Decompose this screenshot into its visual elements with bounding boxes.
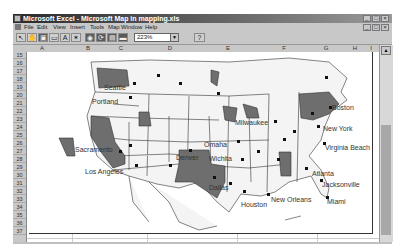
column-header-d[interactable]: D	[155, 45, 185, 52]
center-map-button[interactable]: ▣	[38, 33, 48, 42]
doc-close-button[interactable]: ×	[381, 24, 389, 31]
excel-app-icon[interactable]	[14, 15, 21, 22]
vertical-scrollbar[interactable]: ▲	[379, 45, 393, 242]
menu-map[interactable]: Map	[108, 23, 120, 32]
doc-minimize-button[interactable]: _	[363, 24, 371, 31]
menu-edit[interactable]: Edit	[37, 23, 47, 32]
city-marker[interactable]	[157, 74, 160, 77]
city-marker[interactable]	[283, 138, 286, 141]
city-marker[interactable]	[326, 196, 329, 199]
grabber-button[interactable]: ✋	[27, 33, 37, 42]
city-marker[interactable]	[243, 190, 246, 193]
city-marker[interactable]	[320, 179, 323, 182]
column-header-c[interactable]: C	[106, 45, 136, 52]
row-header[interactable]: 23	[13, 116, 26, 123]
city-marker[interactable]	[129, 144, 132, 147]
menu-insert[interactable]: Insert	[70, 23, 85, 32]
row-header[interactable]: 24	[13, 124, 26, 131]
doc-restore-button[interactable]: □	[372, 24, 380, 31]
scrollbar-thumb[interactable]	[381, 125, 391, 235]
city-marker[interactable]	[257, 150, 260, 153]
city-marker[interactable]	[329, 106, 332, 109]
map-refresh-button[interactable]: ▤	[107, 33, 117, 42]
scroll-up-button[interactable]: ▲	[381, 46, 391, 55]
city-marker[interactable]	[267, 193, 270, 196]
row-header[interactable]: 28	[13, 156, 26, 163]
city-label-omaha: Omaha	[204, 141, 227, 149]
row-header[interactable]: 32	[13, 188, 26, 195]
row-header[interactable]: 29	[13, 164, 26, 171]
row-header[interactable]: 37	[13, 228, 26, 235]
city-marker[interactable]	[311, 112, 314, 115]
redraw-map-button[interactable]: ⟳	[96, 33, 106, 42]
menu-window[interactable]: Window	[121, 23, 142, 32]
city-marker[interactable]	[293, 130, 296, 133]
row-header[interactable]: 26	[13, 140, 26, 147]
column-header-b[interactable]: B	[73, 45, 103, 52]
row-header[interactable]: 21	[13, 100, 26, 107]
window-title: Microsoft Excel - Microsoft Map in mappi…	[23, 14, 179, 23]
city-marker[interactable]	[135, 164, 138, 167]
row-header[interactable]: 22	[13, 108, 26, 115]
city-marker[interactable]	[133, 82, 136, 85]
row-header[interactable]: 36	[13, 220, 26, 227]
display-entire-button[interactable]: ◉	[85, 33, 95, 42]
city-marker[interactable]	[237, 140, 240, 143]
help-button[interactable]: ?	[194, 33, 205, 42]
city-marker[interactable]	[217, 92, 220, 95]
row-header[interactable]: 30	[13, 172, 26, 179]
city-marker[interactable]	[229, 182, 232, 185]
row-header[interactable]: 16	[13, 60, 26, 67]
row-header[interactable]: 20	[13, 92, 26, 99]
row-header[interactable]: 33	[13, 196, 26, 203]
row-header[interactable]: 34	[13, 204, 26, 211]
city-marker[interactable]	[325, 76, 328, 79]
microsoft-map-object[interactable]: Seattle Portland Sacramento Los Angeles …	[29, 52, 373, 234]
column-header-f[interactable]: F	[269, 45, 299, 52]
row-header[interactable]: 18	[13, 76, 26, 83]
city-marker[interactable]	[213, 176, 216, 179]
city-marker[interactable]	[189, 149, 192, 152]
row-header[interactable]: 19	[13, 84, 26, 91]
close-button[interactable]: ×	[381, 15, 389, 22]
menu-file[interactable]: File	[24, 23, 34, 32]
map-labels-button[interactable]: ▭	[49, 33, 59, 42]
column-header-g[interactable]: G	[311, 45, 341, 52]
excel-window: Microsoft Excel - Microsoft Map in mappi…	[13, 14, 392, 244]
worksheet-area[interactable]: Seattle Portland Sacramento Los Angeles …	[27, 52, 379, 242]
city-marker[interactable]	[179, 82, 182, 85]
city-marker[interactable]	[277, 158, 280, 161]
row-header[interactable]: 35	[13, 212, 26, 219]
minimize-button[interactable]: _	[363, 15, 371, 22]
document-icon[interactable]	[15, 24, 21, 30]
column-header-i[interactable]: I	[361, 45, 381, 52]
globe-icon: ◉	[87, 34, 93, 41]
show-control-button[interactable]: ▬	[118, 33, 128, 42]
row-header[interactable]: 31	[13, 180, 26, 187]
select-objects-button[interactable]: ↖	[16, 33, 26, 42]
maximize-button[interactable]: □	[372, 15, 380, 22]
row-header[interactable]: 17	[13, 68, 26, 75]
city-marker[interactable]	[129, 96, 132, 99]
zoom-dropdown-button[interactable]: ▼	[170, 33, 179, 42]
city-marker[interactable]	[305, 167, 308, 170]
row-header[interactable]: 27	[13, 148, 26, 155]
column-header-a[interactable]: A	[27, 45, 57, 52]
custom-pin-map-button[interactable]: ✶	[71, 33, 81, 42]
row-header[interactable]: 25	[13, 132, 26, 139]
city-marker[interactable]	[169, 164, 172, 167]
menu-help[interactable]: Help	[145, 23, 157, 32]
menu-tools[interactable]: Tools	[90, 23, 104, 32]
control-panel-icon: ▬	[120, 34, 127, 41]
menu-view[interactable]: View	[53, 23, 66, 32]
city-marker[interactable]	[119, 150, 122, 153]
city-marker[interactable]	[317, 125, 320, 128]
grid-line	[147, 233, 148, 242]
city-marker[interactable]	[274, 120, 277, 123]
city-label-dallas: Dallas	[209, 184, 228, 192]
row-header[interactable]: 15	[13, 52, 26, 59]
add-text-button[interactable]: A	[60, 33, 70, 42]
column-header-e[interactable]: E	[213, 45, 243, 52]
city-marker[interactable]	[323, 142, 326, 145]
city-marker[interactable]	[241, 158, 244, 161]
